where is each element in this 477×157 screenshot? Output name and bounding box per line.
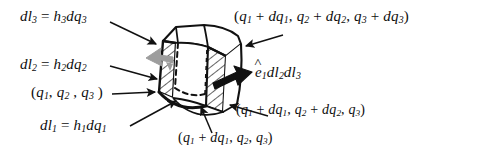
label-corner-q1-plus: (q1 + dq1, q2, q3) [178, 131, 273, 146]
label-corner-all-plus-text: (q1 + dq1, q2 + dq2, q3 + dq3) [234, 8, 409, 24]
label-dl2: dl2 = h2dq2 [20, 57, 87, 73]
label-origin-point: (q1, q2 , q3 ) [31, 85, 103, 101]
element-left-face [159, 41, 176, 98]
label-origin-point-text: (q1, q2 , q3 ) [31, 84, 103, 100]
figure-canvas: dl3 = h3dq3 dl2 = h2dq2 (q1, q2 , q3 ) d… [0, 0, 477, 157]
label-corner-all-plus: (q1 + dq1, q2 + dq2, q3 + dq3) [234, 9, 409, 25]
label-dl3: dl3 = h3dq3 [20, 9, 87, 25]
dl3-leader-line [110, 22, 156, 44]
dl1-leader-line [130, 101, 176, 126]
label-area-vector-text: e1dl2dl3 [255, 64, 301, 80]
label-dl1-text: dl1 = h1dq1 [40, 117, 107, 133]
origin-leader-line [112, 92, 155, 94]
label-dl2-text: dl2 = h2dq2 [20, 56, 87, 72]
corner-all-plus-leader-line [246, 35, 283, 46]
dl2-leader-line [110, 66, 157, 79]
label-dl3-text: dl3 = h3dq3 [20, 8, 87, 24]
label-dl1: dl1 = h1dq1 [40, 118, 107, 134]
label-corner-q1-plus-text: (q1 + dq1, q2, q3) [178, 130, 273, 145]
label-corner-q1q2-plus-text: (q1 + dq1, q2 + dq2, q3) [236, 102, 365, 117]
label-area-vector: e1dl2dl3 [255, 65, 301, 81]
label-corner-q1q2-plus: (q1 + dq1, q2 + dq2, q3) [236, 103, 365, 118]
